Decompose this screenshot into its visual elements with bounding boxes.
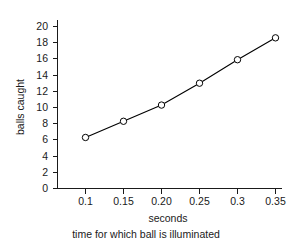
y-tick-label: 6: [42, 133, 48, 145]
y-tick-label: 4: [42, 150, 48, 162]
x-tick-label: 0.15: [113, 195, 134, 207]
data-point: [120, 118, 126, 124]
data-point: [196, 80, 202, 86]
x-axis-title: seconds: [148, 212, 187, 224]
data-point: [82, 134, 88, 140]
data-point: [234, 57, 240, 63]
x-tick-label: 0.3: [230, 195, 245, 207]
y-tick-label: 12: [36, 85, 48, 97]
data-point: [158, 102, 164, 108]
y-tick-label: 20: [36, 20, 48, 32]
y-tick-label: 16: [36, 52, 48, 64]
data-point: [272, 35, 278, 41]
x-tick-label: 0.35: [265, 195, 286, 207]
y-tick-label: 14: [36, 69, 48, 81]
y-tick-label: 18: [36, 36, 48, 48]
y-axis-title: balls caught: [14, 79, 26, 135]
line-chart: 0 2 4 6 8 10 12 14 16 18 20 0.1 0.15 0.2…: [0, 0, 292, 244]
y-tick-label: 8: [42, 117, 48, 129]
chart-figure: 0 2 4 6 8 10 12 14 16 18 20 0.1 0.15 0.2…: [0, 0, 292, 244]
x-tick-label: 0.1: [78, 195, 93, 207]
y-tick-label: 0: [42, 182, 48, 194]
figure-caption: time for which ball is illuminated: [72, 228, 220, 240]
y-tick-label: 2: [42, 166, 48, 178]
y-tick-label: 10: [36, 101, 48, 113]
x-tick-label: 0.25: [189, 195, 210, 207]
x-tick-label: 0.20: [151, 195, 172, 207]
